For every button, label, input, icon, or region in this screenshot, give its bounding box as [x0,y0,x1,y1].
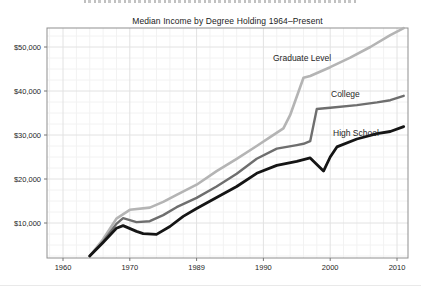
x-axis-label: 2000 [322,263,339,272]
series-label-college: College [331,89,360,99]
y-axis-label: $20,000 [14,175,41,184]
x-axis-label: 1960 [55,263,72,272]
chart-figure: Median Income by Degree Holding 1964–Pre… [0,0,421,287]
y-axis-label: $10,000 [14,219,41,228]
income-line-chart: Graduate LevelCollegeHigh School$10,000$… [0,0,421,287]
x-axis-label: 1970 [121,263,138,272]
series-label-graduate-level: Graduate Level [273,53,331,63]
series-label-high-school: High School [333,128,379,138]
x-axis-label: 1990 [255,263,272,272]
y-axis-label: $50,000 [14,43,41,52]
y-axis-label: $40,000 [14,87,41,96]
x-axis-label: 2010 [389,263,406,272]
y-axis-label: $30,000 [14,131,41,140]
x-axis-label: 1989 [188,263,205,272]
bottom-divider [0,285,421,286]
